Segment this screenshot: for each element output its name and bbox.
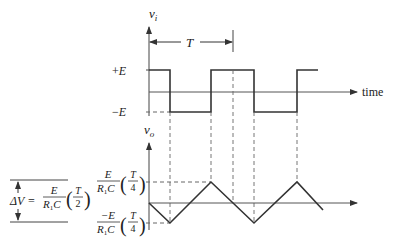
svg-text:E: E: [50, 184, 58, 196]
square-wave: [149, 70, 318, 112]
svg-text:): ): [139, 212, 146, 237]
svg-text:−E: −E: [101, 209, 115, 221]
svg-text:2: 2: [76, 198, 81, 209]
svg-text:R1C: R1C: [96, 182, 115, 196]
time-label: time: [362, 85, 383, 99]
svg-text:(: (: [120, 212, 127, 237]
svg-text:T: T: [75, 185, 82, 196]
svg-text:(: (: [120, 171, 127, 196]
svg-text:R1C: R1C: [96, 223, 115, 237]
svg-text:T: T: [130, 210, 137, 221]
svg-text:): ): [139, 171, 146, 196]
svg-text:4: 4: [131, 182, 136, 193]
waveform-diagram: vi time +E −E T vo: [0, 0, 393, 244]
svg-text:): ): [84, 188, 91, 211]
plus-e-label: +E: [112, 64, 127, 78]
input-panel: vi time +E −E T: [112, 6, 383, 119]
svg-text:ΔV =: ΔV =: [9, 194, 35, 208]
period-label: T: [186, 35, 194, 50]
output-panel: vo E R1C ( T 4 ) −E R1C ( T 4 ): [96, 122, 357, 237]
svg-text:T: T: [130, 169, 137, 180]
svg-text:4: 4: [131, 223, 136, 234]
upper-level-label: E R1C ( T 4 ): [96, 168, 146, 196]
vi-axis-label: vi: [149, 6, 158, 23]
svg-text:R1C: R1C: [42, 198, 61, 212]
lower-level-label: −E R1C ( T 4 ): [96, 209, 146, 237]
delta-v-annotation: ΔV = E R1C ( T 2 ): [9, 180, 91, 222]
svg-text:E: E: [104, 168, 112, 180]
svg-text:(: (: [66, 188, 73, 211]
minus-e-label: −E: [112, 105, 127, 119]
vo-axis-label: vo: [144, 122, 155, 139]
